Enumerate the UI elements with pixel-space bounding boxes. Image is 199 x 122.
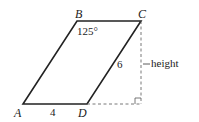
side-cd-label: 6 [117,58,123,70]
side-ad-label: 4 [50,106,56,118]
vertex-label-a: A [13,106,22,120]
parallelogram-diagram: A B C D 125° 4 6 height [0,0,199,122]
height-label: height [151,57,179,69]
vertex-label-d: D [77,106,87,120]
vertex-label-b: B [75,7,83,21]
angle-b-label: 125° [77,25,98,37]
right-angle-mark [135,98,141,104]
vertex-label-c: C [138,7,147,21]
